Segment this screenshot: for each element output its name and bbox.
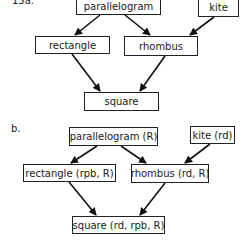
edge-a-parallelogram-rhombus	[125, 15, 150, 35]
edge-b-kite-rhombus	[185, 144, 210, 163]
edge-b-rhombus-square	[140, 183, 165, 215]
node-b-rectangle: rectangle (rpb, R)	[23, 164, 116, 182]
node-b-rhombus: rhombus (rd, R)	[131, 164, 209, 183]
node-a-rhombus: rhombus	[124, 36, 198, 56]
edge-a-parallelogram-rectangle	[75, 15, 100, 35]
part-a-label: 15a.	[12, 0, 34, 7]
edge-a-kite-rhombus	[190, 17, 214, 35]
edge-b-rectangle-square	[69, 182, 96, 215]
node-b-kite: kite (rd)	[190, 126, 235, 144]
node-a-square: square	[84, 92, 159, 111]
node-a-parallelogram: parallelogram	[76, 0, 161, 15]
edge-b-parallelogram-rectangle	[71, 146, 97, 163]
edge-b-parallelogram-rhombus	[121, 146, 146, 163]
node-b-parallelogram: parallelogram (R)	[69, 127, 158, 146]
node-a-kite: kite	[198, 0, 239, 17]
part-b-label: b.	[11, 123, 21, 135]
node-b-square: square (rd, rpb, R)	[72, 216, 165, 234]
node-a-rectangle: rectangle	[35, 36, 110, 54]
edge-a-rhombus-square	[140, 56, 165, 91]
edge-a-rectangle-square	[72, 54, 100, 91]
